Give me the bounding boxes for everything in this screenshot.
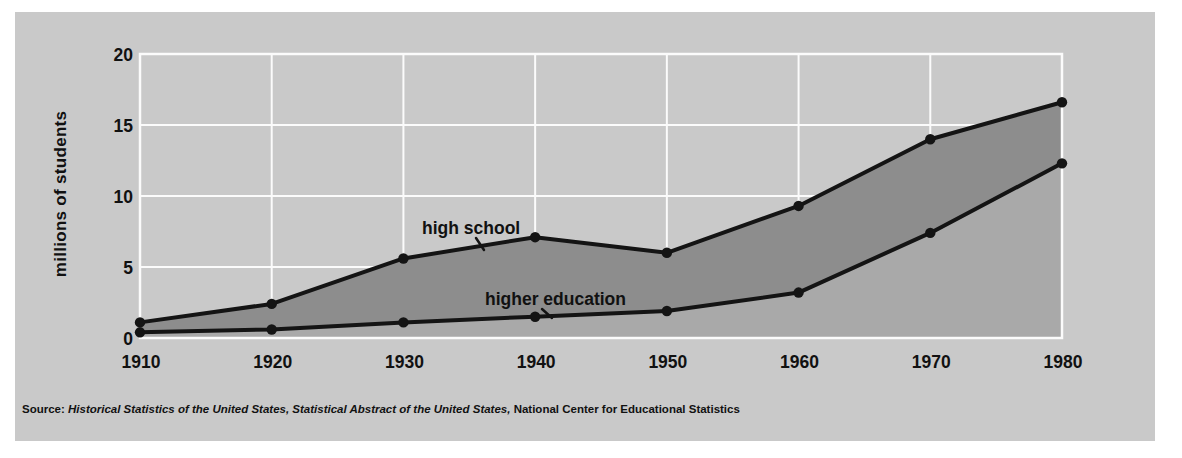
x-tick-label: 1910	[122, 352, 161, 372]
higher-education-point	[530, 312, 540, 322]
higher-education-point	[1057, 158, 1067, 168]
y-tick-label: 5	[123, 258, 133, 278]
x-tick-label: 1960	[780, 352, 819, 372]
x-tick-label: 1950	[648, 352, 687, 372]
high-school-point	[1057, 97, 1067, 107]
higher-education-point	[925, 228, 935, 238]
high-school-point	[530, 232, 540, 242]
high-school-point	[135, 317, 145, 327]
x-tick-label: 1930	[385, 352, 424, 372]
high-school-point	[662, 248, 672, 258]
source-rest: National Center for Educational Statisti…	[510, 403, 739, 415]
y-tick-label: 10	[114, 187, 134, 207]
higher-education-point	[793, 287, 803, 297]
chart-panel: 0510152019101920193019401950196019701980…	[15, 12, 1155, 441]
high-school-point	[793, 201, 803, 211]
source-prefix: Source:	[22, 403, 68, 415]
high-school-label: high school	[422, 218, 520, 239]
enrollment-chart: 0510152019101920193019401950196019701980	[15, 12, 1155, 441]
higher-education-point	[398, 317, 408, 327]
higher-education-label: higher education	[485, 289, 626, 310]
x-tick-label: 1980	[1044, 352, 1083, 372]
higher-education-point	[135, 327, 145, 337]
x-tick-label: 1970	[912, 352, 951, 372]
source-italic-titles: Historical Statistics of the United Stat…	[68, 403, 510, 415]
higher-education-point	[267, 324, 277, 334]
y-axis-title: millions of students	[51, 111, 71, 278]
x-tick-label: 1940	[517, 352, 556, 372]
source-note: Source: Historical Statistics of the Uni…	[22, 403, 740, 415]
page: { "colors": { "page_bg": "#ffffff", "pan…	[0, 0, 1182, 458]
high-school-point	[267, 299, 277, 309]
high-school-point	[398, 253, 408, 263]
higher-education-point	[662, 306, 672, 316]
x-tick-label: 1920	[253, 352, 292, 372]
high-school-point	[925, 134, 935, 144]
y-tick-label: 20	[114, 45, 134, 65]
y-tick-label: 15	[114, 116, 134, 136]
y-tick-label: 0	[123, 329, 133, 349]
